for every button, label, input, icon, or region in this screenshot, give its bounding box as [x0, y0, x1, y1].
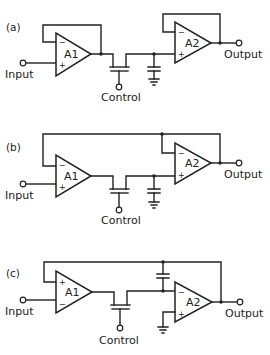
ground-icon [149, 202, 159, 208]
control-terminal[interactable] [116, 207, 122, 213]
a2-label: A2 [185, 157, 200, 170]
a1-inverting-sign: − [59, 300, 66, 309]
output-terminal[interactable] [236, 160, 242, 166]
circuit-b: (b) Input − + A1 Control − + A2 [5, 132, 263, 227]
hold-capacitor [157, 274, 169, 278]
a1-label: A1 [64, 170, 79, 183]
output-label: Output [224, 168, 263, 181]
fet-source-wire [126, 54, 175, 67]
fet-source-wire [126, 176, 175, 189]
fet-source-wire [127, 291, 175, 305]
input-terminal[interactable] [20, 60, 26, 66]
input-label: Input [5, 189, 34, 202]
a1-inverting-sign: − [59, 161, 66, 170]
input-terminal[interactable] [20, 181, 26, 187]
ground-icon [149, 79, 159, 85]
circuit-c: (c) Input + − A1 Control − + A2 [5, 260, 264, 347]
a1-label: A1 [65, 286, 80, 299]
circuit-tag: (c) [6, 267, 20, 279]
a2-noninverting-sign: + [178, 310, 185, 319]
a1-noninverting-sign: + [59, 183, 66, 192]
control-terminal[interactable] [116, 84, 122, 90]
a2-noninverting-sign: + [178, 50, 185, 59]
junction-dot [218, 161, 222, 165]
circuit-a: (a) Input − + A1 Control − + A2 [5, 14, 263, 104]
fet-drain-wire [91, 54, 113, 67]
circuit-tag: (b) [6, 141, 21, 153]
input-label: Input [5, 305, 34, 318]
control-label: Control [101, 214, 141, 227]
ground-icon [158, 327, 168, 333]
a2-feedback-wire [162, 134, 175, 153]
sample-hold-circuits-diagram: (a) Input − + A1 Control − + A2 [0, 0, 270, 355]
control-terminal[interactable] [117, 325, 123, 331]
a2-inverting-sign: − [178, 149, 185, 158]
junction-dot [160, 132, 164, 136]
fet-drain-wire [91, 176, 113, 189]
fet-drain-wire [92, 292, 114, 305]
circuit-tag: (a) [6, 21, 21, 33]
input-label: Input [5, 68, 34, 81]
a1-noninverting-sign: + [59, 61, 66, 70]
output-label: Output [224, 48, 263, 61]
output-label: Output [225, 307, 264, 320]
control-label: Control [101, 91, 141, 104]
a1-label: A1 [64, 48, 79, 61]
a2-ground-wire [163, 312, 175, 327]
junction-dot [99, 52, 103, 56]
a2-inverting-sign: − [178, 28, 185, 37]
a2-inverting-sign: − [178, 288, 185, 297]
output-terminal[interactable] [236, 40, 242, 46]
a2-label: A2 [186, 296, 201, 309]
a2-noninverting-sign: + [178, 171, 185, 180]
junction-dot [219, 300, 223, 304]
a2-label: A2 [185, 37, 200, 50]
a1-inverting-sign: − [59, 38, 66, 47]
junction-dot [218, 41, 222, 45]
output-terminal[interactable] [237, 299, 243, 305]
input-terminal[interactable] [20, 297, 26, 303]
control-label: Control [99, 334, 139, 347]
